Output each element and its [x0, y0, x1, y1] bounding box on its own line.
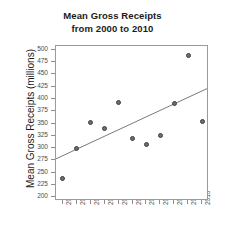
y-tick-label: 300 [25, 143, 48, 150]
trend-line [56, 46, 207, 199]
y-tick-label: 325 [25, 131, 48, 138]
data-point [200, 119, 205, 124]
y-tick-label: 375 [25, 106, 48, 113]
x-tick-mark [90, 200, 91, 204]
x-tick-mark [132, 200, 133, 204]
y-tick-label: 500 [25, 45, 48, 52]
data-point [144, 142, 149, 147]
data-point [158, 133, 163, 138]
data-point [130, 136, 135, 141]
data-point [74, 146, 79, 151]
plot-area [55, 45, 208, 200]
y-tick-label: 275 [25, 155, 48, 162]
chart-title: Mean Gross Receipts from 2000 to 2010 [0, 10, 225, 35]
y-tick-label: 225 [25, 180, 48, 187]
plot-inner [56, 46, 207, 199]
x-tick-mark [173, 200, 174, 204]
chart-title-line-1: Mean Gross Receipts [0, 10, 225, 23]
x-tick-mark [201, 200, 202, 204]
y-tick-label: 350 [25, 119, 48, 126]
y-tick-label: 450 [25, 69, 48, 76]
y-tick-label: 400 [25, 94, 48, 101]
y-tick-label: 475 [25, 57, 48, 64]
data-point [186, 53, 191, 58]
y-tick-label: 250 [25, 168, 48, 175]
x-tick-mark [145, 200, 146, 204]
x-tick-mark [62, 200, 63, 204]
x-tick-mark [159, 200, 160, 204]
x-tick-mark [187, 200, 188, 204]
x-tick-mark [118, 200, 119, 204]
chart-title-line-2: from 2000 to 2010 [0, 23, 225, 36]
y-tick-label: 200 [25, 192, 48, 199]
x-tick-mark [76, 200, 77, 204]
x-tick-mark [104, 200, 105, 204]
scatter-chart: Mean Gross Receipts from 2000 to 2010 Me… [0, 0, 225, 244]
y-tick-label: 425 [25, 82, 48, 89]
